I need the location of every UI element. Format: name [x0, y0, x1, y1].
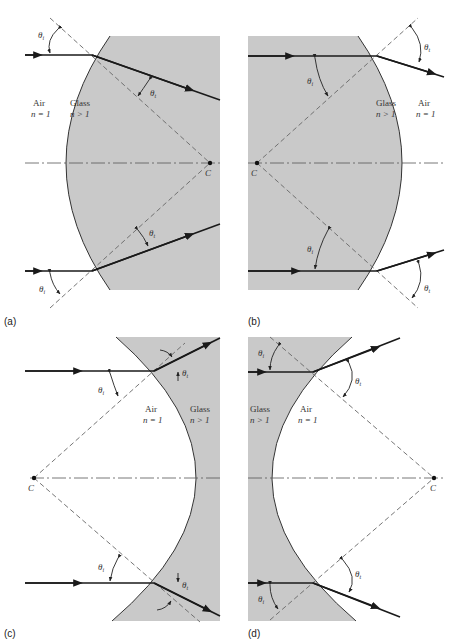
angle-arc-theta-i — [49, 29, 58, 53]
normal-line — [34, 343, 185, 478]
theta-t-label: θt — [424, 283, 430, 294]
angle-arc-theta-t — [343, 560, 352, 592]
theta-i-label: θi — [38, 30, 44, 41]
medium-name-left: Glass — [376, 98, 396, 108]
medium-name-right: Glass — [70, 98, 90, 108]
angle-arc-theta-i — [110, 373, 118, 396]
angle-arc-theta-t — [412, 28, 421, 62]
theta-i-label: θi — [98, 385, 104, 396]
medium-index-right: n > 1 — [70, 109, 90, 119]
glass-region — [112, 337, 220, 621]
center-of-curvature — [432, 476, 436, 480]
panel-b: C θi θt θi θt Glass n > 1 Air n = 1 (b) — [248, 18, 445, 327]
panel-caption: (d) — [248, 628, 260, 639]
panel-d: C θi θt θt θi Glass n > 1 Air n = 1 (d) — [248, 337, 445, 639]
angle-arc-theta-t — [343, 363, 352, 397]
refraction-figure: C θi θt θt θi Air n = 1 Glass n > 1 (a) — [0, 0, 452, 641]
panel-caption: (c) — [4, 628, 16, 639]
center-label: C — [251, 168, 258, 178]
center-of-curvature — [255, 161, 259, 165]
medium-index-right: n = 1 — [298, 415, 318, 425]
medium-name-right: Air — [300, 404, 312, 414]
angle-arc-theta-t — [412, 264, 421, 298]
medium-index-left: n = 1 — [143, 415, 163, 425]
panel-a: C θi θt θt θi Air n = 1 Glass n > 1 (a) — [4, 18, 222, 327]
medium-name-left: Air — [33, 98, 45, 108]
center-label: C — [430, 483, 437, 493]
angle-arc-theta-i — [110, 558, 118, 581]
theta-t-label: θt — [424, 42, 430, 53]
panel-caption: (a) — [4, 316, 16, 327]
medium-index-left: n = 1 — [31, 109, 51, 119]
theta-t-label: θt — [355, 569, 361, 580]
glass-region — [248, 337, 356, 621]
center-label: C — [28, 483, 35, 493]
medium-index-right: n > 1 — [190, 415, 210, 425]
center-of-curvature — [208, 161, 212, 165]
center-label: C — [205, 168, 212, 178]
theta-i-label: θi — [39, 284, 45, 295]
refracted-ray-arrow — [377, 254, 432, 271]
refracted-ray-arrow — [377, 56, 432, 73]
angle-arc-theta-i — [50, 273, 60, 294]
medium-index-left: n > 1 — [376, 109, 396, 119]
normal-line — [270, 337, 434, 478]
medium-name-left: Air — [145, 404, 157, 414]
panel-caption: (b) — [248, 316, 260, 327]
medium-index-right: n = 1 — [416, 109, 436, 119]
medium-index-left: n > 1 — [250, 415, 270, 425]
theta-t-label: θt — [355, 376, 361, 387]
medium-name-left: Glass — [250, 404, 270, 414]
medium-name-right: Air — [418, 98, 430, 108]
medium-name-right: Glass — [190, 404, 210, 414]
theta-i-label: θi — [98, 562, 104, 573]
center-of-curvature — [32, 476, 36, 480]
panel-c: C θi θt θi θt Air n = 1 Glass n > 1 (c) — [4, 337, 220, 639]
